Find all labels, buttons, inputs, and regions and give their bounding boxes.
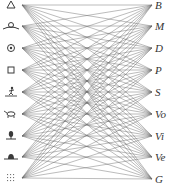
right-label-ve: Ve [155,152,165,163]
right-label-b: B [155,0,162,11]
right-label-p: P [155,65,162,76]
right-label-m: M [155,21,164,32]
bipartite-diagram [0,0,172,185]
square-icon [8,67,14,73]
right-label-d: D [155,43,163,54]
right-label-vo: Vo [155,109,166,120]
right-label-vi: Vi [155,131,164,142]
connection-line [22,178,152,179]
human-figure-icon [5,87,17,96]
animal-icon [4,111,15,118]
left-symbols [3,1,19,181]
connection-lines [22,5,152,179]
dots-icon [7,174,14,181]
plant-icon [6,131,16,139]
winged-orb-icon [3,23,19,30]
right-label-s: S [155,87,161,98]
triangle-icon [7,1,15,8]
concentric-circle-icon [8,45,15,52]
stone-icon [4,154,18,159]
right-label-g: G [155,174,163,185]
